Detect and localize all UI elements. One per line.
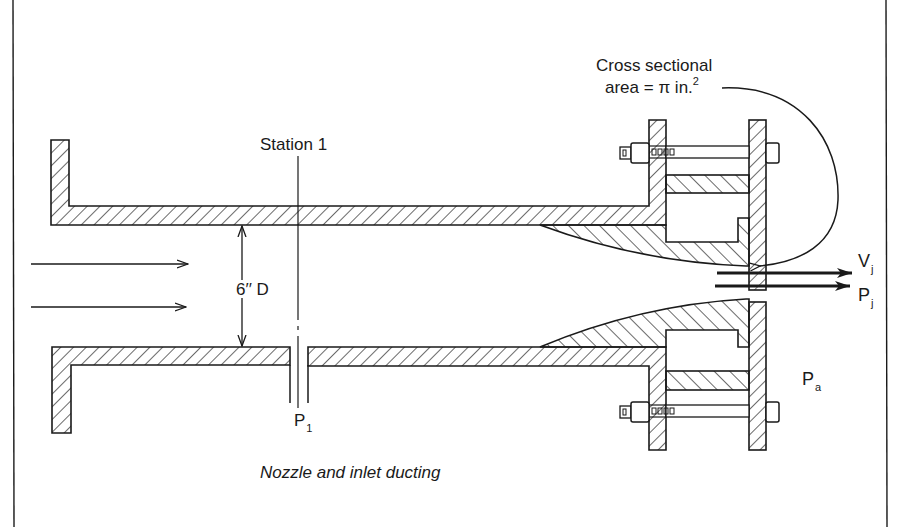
nozzle-contraction-upper xyxy=(540,218,749,266)
p1-subscript: 1 xyxy=(306,422,312,434)
pa-label: Pa xyxy=(802,370,821,388)
frame-right-border xyxy=(886,0,887,527)
p1-symbol: P xyxy=(294,411,305,430)
cross-section-area-text: area = π in. xyxy=(605,78,693,97)
pj-label: Pj xyxy=(858,286,873,304)
nozzle-diagram: Cross sectional area = π in.2 Station 1 … xyxy=(0,0,902,527)
frame-left-border xyxy=(13,0,14,527)
pj-symbol: P xyxy=(858,285,870,305)
cross-section-label-line1: Cross sectional xyxy=(596,57,712,74)
p1-label: P1 xyxy=(294,412,312,429)
nozzle-contraction-lower xyxy=(540,299,749,347)
diameter-label: 6′′ D xyxy=(236,281,269,298)
station-1-label: Station 1 xyxy=(260,136,327,153)
spacer-block-lower xyxy=(666,371,749,390)
cross-section-label-line2: area = π in.2 xyxy=(605,79,699,96)
upper-duct-wall xyxy=(51,120,666,225)
pa-symbol: P xyxy=(802,369,814,389)
vj-symbol: V xyxy=(858,251,870,271)
cross-section-exponent: 2 xyxy=(693,75,699,87)
nozzle-flange-lower xyxy=(749,302,766,450)
nozzle-flange-upper xyxy=(749,120,766,290)
figure-caption: Nozzle and inlet ducting xyxy=(260,464,441,481)
lower-duct-wall-right xyxy=(308,347,666,450)
diagram-canvas xyxy=(0,0,902,527)
vj-label: Vj xyxy=(858,252,873,270)
pa-subscript: a xyxy=(815,381,821,393)
spacer-block-upper xyxy=(666,175,749,193)
lower-duct-wall-left xyxy=(52,347,290,433)
